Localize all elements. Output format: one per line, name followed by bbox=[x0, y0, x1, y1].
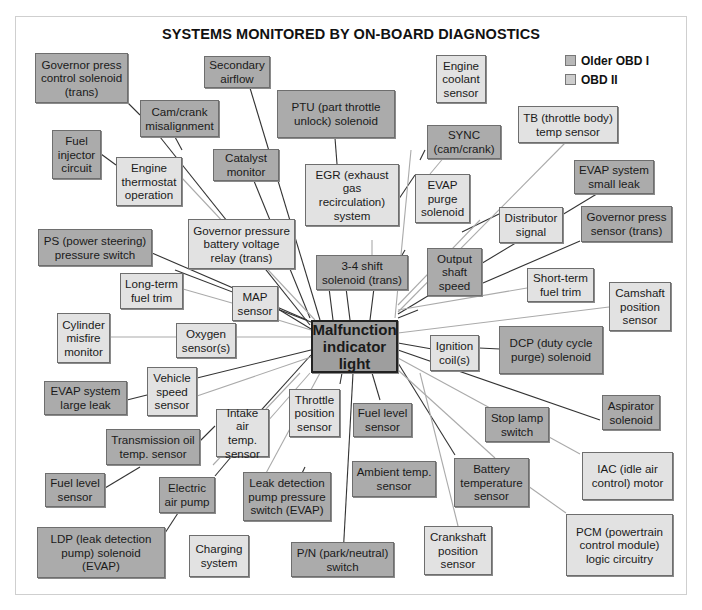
box-ldp: LDP (leak detection pump) solenoid (EVAP… bbox=[37, 527, 165, 578]
box-ps-pressure-switch: PS (power steering) pressure switch bbox=[38, 229, 152, 266]
box-fuel-level-sensor-left: Fuel level sensor bbox=[45, 473, 105, 507]
box-battery-temp-sensor: Battery temperature sensor bbox=[454, 458, 529, 507]
malfunction-indicator-light: Malfunction indicator light bbox=[311, 320, 398, 373]
box-fuel-level-sensor-center: Fuel level sensor bbox=[353, 403, 412, 437]
box-engine-thermostat: Engine thermostat operation bbox=[116, 157, 182, 206]
box-ambient-temp-sensor: Ambient temp. sensor bbox=[352, 461, 436, 497]
box-evap-large-leak: EVAP system large leak bbox=[44, 381, 127, 415]
box-pcm: PCM (powertrain control module) logic ci… bbox=[566, 514, 673, 576]
box-fuel-injector-circuit: Fuel injector circuit bbox=[52, 130, 101, 179]
box-evap-purge-solenoid: EVAP purge solenoid bbox=[415, 174, 470, 223]
box-leak-detection-pump-switch: Leak detection pump pressure switch (EVA… bbox=[243, 472, 331, 521]
box-iac: IAC (idle air control) motor bbox=[582, 452, 673, 500]
box-tb-temp-sensor: TB (throttle body) temp sensor bbox=[518, 106, 618, 143]
box-ignition-coils: Ignition coil(s) bbox=[430, 335, 479, 371]
box-transmission-oil-temp: Transmission oil temp. sensor bbox=[106, 429, 200, 465]
box-ptu: PTU (part throttle unlock) solenoid bbox=[277, 90, 395, 138]
box-short-term-fuel-trim: Short-term fuel trim bbox=[527, 268, 594, 302]
box-3-4-shift-solenoid: 3-4 shift solenoid (trans) bbox=[316, 255, 408, 290]
box-output-shaft-speed: Output shaft speed bbox=[427, 248, 482, 296]
box-engine-coolant-sensor: Engine coolant sensor bbox=[436, 55, 486, 103]
box-catalyst-monitor: Catalyst monitor bbox=[213, 149, 279, 181]
box-sync: SYNC (cam/crank) bbox=[427, 125, 501, 159]
box-cam-crank-misalignment: Cam/crank misalignment bbox=[140, 100, 219, 137]
box-distributor-signal: Distributor signal bbox=[499, 207, 563, 243]
box-intake-air-temp: Intake air temp. sensor bbox=[216, 409, 269, 457]
box-dcp: DCP (duty cycle purge) solenoid bbox=[499, 326, 603, 374]
box-egr: EGR (exhaust gas recirculation) system bbox=[305, 164, 399, 226]
box-stop-lamp-switch: Stop lamp switch bbox=[485, 407, 549, 442]
box-crankshaft-position-sensor: Crankshaft position sensor bbox=[424, 526, 492, 575]
box-governor-press-sensor: Governor press sensor (trans) bbox=[581, 206, 672, 242]
box-charging-system: Charging system bbox=[189, 535, 249, 577]
box-pn-switch: P/N (park/neutral) switch bbox=[291, 542, 394, 577]
box-aspirator-solenoid: Aspirator solenoid bbox=[602, 395, 660, 430]
box-evap-small-leak: EVAP system small leak bbox=[574, 160, 654, 194]
box-oxygen-sensors: Oxygen sensor(s) bbox=[176, 323, 236, 358]
box-throttle-position-sensor: Throttle position sensor bbox=[289, 389, 340, 437]
box-long-term-fuel-trim: Long-term fuel trim bbox=[120, 273, 183, 309]
box-camshaft-position-sensor: Camshaft position sensor bbox=[609, 282, 671, 331]
box-cylinder-misfire: Cylinder misfire monitor bbox=[57, 313, 110, 363]
box-secondary-airflow: Secondary airflow bbox=[204, 56, 270, 88]
box-electric-air-pump: Electric air pump bbox=[159, 477, 215, 513]
box-governor-press-control-solenoid: Governor press control solenoid (trans) bbox=[35, 53, 128, 103]
box-vehicle-speed-sensor: Vehicle speed sensor bbox=[147, 367, 197, 416]
box-map-sensor: MAP sensor bbox=[232, 286, 278, 321]
box-governor-pressure-battery: Governor pressure battery voltage relay … bbox=[188, 219, 295, 269]
